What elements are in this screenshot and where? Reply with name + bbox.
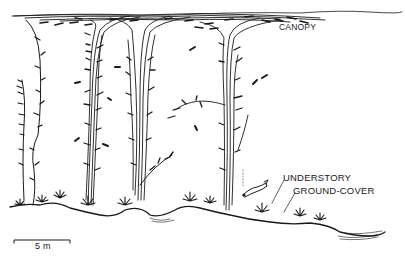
diver-icon [243,170,269,197]
fish-icon [103,144,108,146]
fish-icon [108,98,111,100]
scale-bar-label: 5 m [35,241,51,251]
understory-plant-left [17,80,25,200]
fish-icon [195,126,197,130]
fish-icon [190,47,195,50]
kelp-stalk-1 [26,20,45,205]
bush [294,208,306,216]
canopy-label: CANOPY [279,22,316,32]
kelp-forest-diagram [0,0,405,263]
label-leader-lines [272,180,295,212]
bush [36,195,48,202]
bush [183,192,197,201]
bush [255,203,269,212]
fish-icon [75,82,80,83]
bush [314,213,326,220]
bush [118,197,132,205]
fish-icon [253,80,257,84]
bush [204,196,216,203]
ground-cover-label: GROUND-COVER [293,185,375,196]
fish-icon [262,75,267,78]
fish-icon [75,138,79,141]
seafloor [10,203,385,236]
understory-leader [272,180,284,203]
drifting-kelp-branch [168,96,225,118]
kelp-stalk-4 [200,18,280,210]
bush [54,190,66,198]
understory-label: UNDERSTORY [283,172,351,183]
